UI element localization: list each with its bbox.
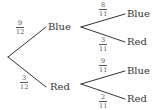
branch-root-to-blue	[8, 27, 46, 57]
numerator: 9	[100, 58, 106, 65]
probability-red-first: 3 12	[20, 75, 28, 90]
numerator: 8	[100, 2, 106, 9]
probability-blue-first: 9 12	[16, 20, 24, 35]
probability-blue-then-blue: 8 11	[99, 2, 107, 17]
numerator: 2	[100, 94, 106, 101]
denominator: 11	[99, 66, 107, 73]
outcome-label-red-then-blue: Blue	[127, 66, 150, 76]
probability-blue-then-red: 3 11	[99, 37, 107, 52]
outcome-label-blue-then-blue: Blue	[127, 9, 150, 19]
outcome-label-red-then-red: Red	[127, 94, 147, 104]
denominator: 11	[99, 10, 107, 17]
denominator: 12	[16, 28, 24, 35]
denominator: 12	[20, 83, 28, 90]
numerator: 9	[17, 20, 23, 27]
probability-red-then-blue: 9 11	[99, 58, 107, 73]
probability-red-then-red: 2 11	[99, 94, 107, 109]
outcome-label-red-first: Red	[50, 82, 70, 92]
outcome-label-blue-then-red: Red	[127, 37, 147, 47]
denominator: 11	[99, 102, 107, 109]
outcome-label-blue-first: Blue	[48, 22, 71, 32]
numerator: 3	[100, 37, 106, 44]
numerator: 3	[21, 75, 27, 82]
denominator: 11	[99, 45, 107, 52]
